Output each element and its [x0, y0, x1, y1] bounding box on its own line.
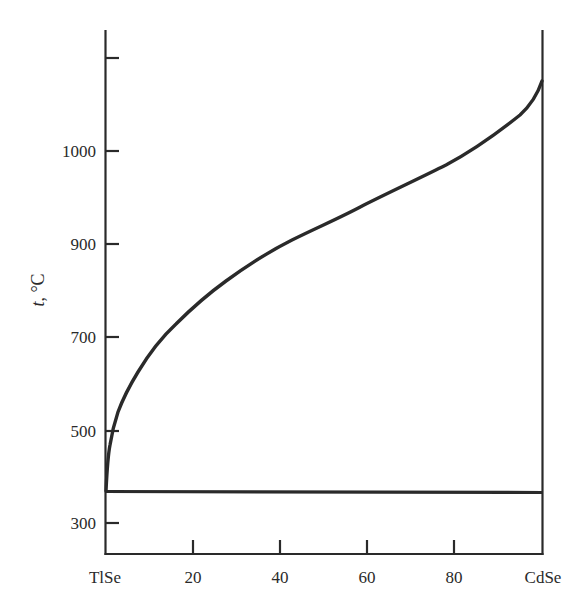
phase-diagram-chart: 1000 900 700 500 300 TlSe 20 40 60 80 Cd… [0, 0, 583, 609]
x-ticks [193, 540, 454, 554]
y-axis-title: t, °C [28, 273, 48, 306]
x-tick-label-20: 20 [185, 568, 202, 587]
x-tick-label-cdse: CdSe [525, 568, 562, 587]
y-tick-label-500: 500 [71, 422, 97, 441]
isotherm-line [105, 492, 542, 493]
y-tick-label-1000: 1000 [62, 142, 96, 161]
x-tick-label-40: 40 [272, 568, 289, 587]
x-tick-label-80: 80 [446, 568, 463, 587]
x-tick-label-60: 60 [359, 568, 376, 587]
y-tick-label-900: 900 [71, 235, 97, 254]
y-tick-label-700: 700 [71, 328, 97, 347]
x-tick-label-tlse: TlSe [89, 568, 121, 587]
liquidus-curve [106, 81, 542, 491]
y-tick-label-300: 300 [71, 514, 97, 533]
